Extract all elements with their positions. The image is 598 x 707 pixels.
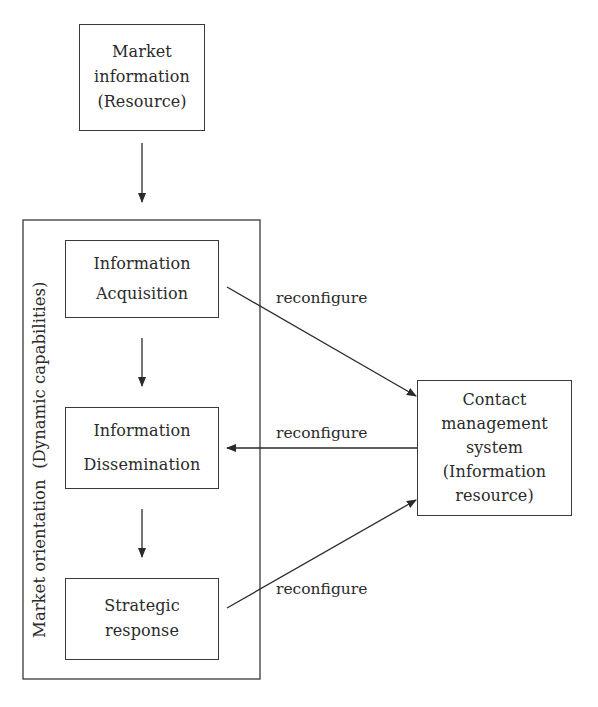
node-text: response <box>105 619 179 644</box>
market-information-node: Market information (Resource) <box>79 24 205 131</box>
node-text: Market <box>112 40 172 65</box>
node-text: Dissemination <box>84 448 201 482</box>
node-text: management <box>441 412 548 436</box>
node-text: Acquisition <box>96 279 188 309</box>
node-text: system <box>466 436 523 460</box>
node-text: (Resource) <box>97 90 186 115</box>
node-text: resource) <box>455 484 534 508</box>
edge-label-reconfigure-1: reconfigure <box>276 289 367 307</box>
node-text: (Information <box>443 460 546 484</box>
node-text: information <box>94 65 190 90</box>
node-text: Information <box>93 249 190 279</box>
strategic-response-node: Strategic response <box>65 578 219 660</box>
node-text: Contact <box>462 388 526 412</box>
information-dissemination-node: Information Dissemination <box>65 407 219 489</box>
information-acquisition-node: Information Acquisition <box>65 240 219 318</box>
contact-management-system-node: Contact management system (Information r… <box>417 380 572 516</box>
node-text: Strategic <box>104 594 180 619</box>
market-orientation-group-label: Market orientation (Dynamic capabilities… <box>30 282 49 638</box>
node-text: Information <box>93 414 190 448</box>
edge-label-reconfigure-3: reconfigure <box>276 580 367 598</box>
edge-label-reconfigure-2: reconfigure <box>276 424 367 442</box>
